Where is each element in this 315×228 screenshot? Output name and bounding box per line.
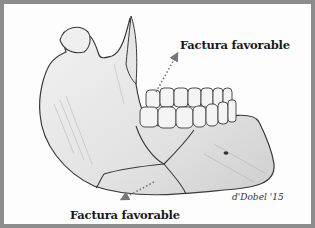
teeth	[140, 88, 236, 128]
label-favorable-fracture-top: Factura favorable	[180, 38, 290, 52]
artist-signature: d'Dobel '15	[232, 192, 284, 202]
figure-frame: Factura favorable Factura favorable d'Do…	[0, 0, 315, 228]
label-favorable-fracture-bottom: Factura favorable	[70, 208, 180, 222]
arrow-top	[156, 56, 176, 92]
